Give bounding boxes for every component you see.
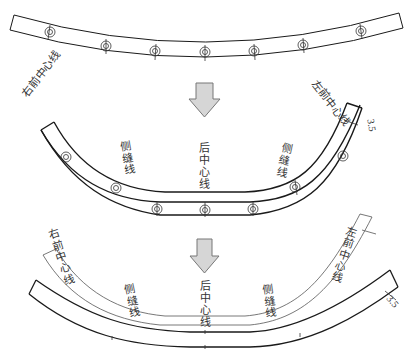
notch-marker-icon xyxy=(356,24,366,39)
dimension-step2: 3.5 xyxy=(364,118,378,132)
arrow-down-icon xyxy=(189,83,220,117)
notch-marker-icon xyxy=(249,44,259,60)
notch-marker-icon xyxy=(61,152,71,162)
notch-marker-icon xyxy=(45,25,55,40)
step3-straightened-strip xyxy=(29,270,398,347)
notch-marker-icon xyxy=(101,39,111,54)
label-back-center-step3: 后中心线 xyxy=(198,280,210,328)
step3-marks xyxy=(112,291,396,349)
notch-marker-icon xyxy=(200,45,210,61)
label-back-center-step2: 后中心线 xyxy=(197,142,209,190)
notch-marker-icon xyxy=(150,44,160,60)
notch-marker-icon xyxy=(298,38,308,53)
arrow-down-icon xyxy=(190,239,219,273)
notch-marker-icon xyxy=(111,183,121,193)
